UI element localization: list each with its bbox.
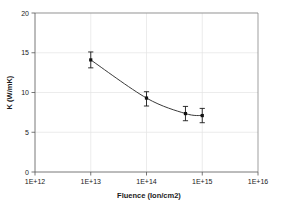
x-tick-label-1e15: 1E+15 (192, 178, 213, 185)
x-tick-label-1e13: 1E+13 (81, 178, 102, 185)
x-tick-label-1e12: 1E+12 (25, 178, 46, 185)
chart-figure: 20 15 10 5 0 1E+12 1E+13 1E+14 1E+15 1E+… (0, 0, 297, 204)
y-tick-label-0: 0 (25, 169, 29, 176)
y-axis-title: K (W/mK) (5, 75, 14, 109)
y-tick-label-10: 10 (21, 89, 29, 96)
x-tick-label-1e14: 1E+14 (136, 178, 157, 185)
y-tick-marks (32, 13, 36, 172)
chart-canvas: 20 15 10 5 0 1E+12 1E+13 1E+14 1E+15 1E+… (0, 0, 297, 204)
y-tick-label-20: 20 (21, 10, 29, 17)
data-point-marker (89, 58, 92, 61)
x-tick-labels: 1E+12 1E+13 1E+14 1E+15 1E+16 (25, 178, 269, 185)
data-point-marker (184, 112, 187, 115)
data-point-marker (145, 96, 148, 99)
x-tick-label-1e16: 1E+16 (248, 178, 269, 185)
y-tick-label-5: 5 (25, 129, 29, 136)
x-axis-title: Fluence (Ion/cm2) (117, 191, 181, 200)
x-tick-marks (35, 172, 258, 176)
data-point-marker (201, 114, 204, 117)
y-tick-labels: 20 15 10 5 0 (21, 10, 29, 176)
y-tick-label-15: 15 (21, 49, 29, 56)
